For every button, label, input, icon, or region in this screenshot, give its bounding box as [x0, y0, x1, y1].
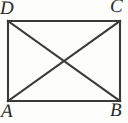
vertex-label-A: A — [1, 102, 13, 121]
vertex-label-C: C — [110, 0, 123, 16]
geometry-figure: D C A B — [0, 0, 128, 123]
rectangle-with-diagonals-svg — [0, 0, 128, 123]
vertex-label-D: D — [0, 0, 14, 18]
vertex-label-B: B — [110, 101, 122, 120]
